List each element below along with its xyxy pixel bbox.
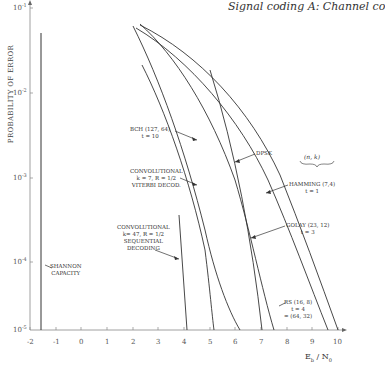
x-ticks — [30, 327, 338, 330]
x-tick-label: 5 — [208, 338, 212, 346]
x-tick-label: 10 — [333, 338, 342, 346]
annotation-conv-viterbi: CONVOLUTIONALk = 7, R = 1/2VITERBI DECOD… — [130, 168, 183, 189]
annotation-rs: RS (16, 8)t = 4= (64, 32) — [284, 299, 312, 320]
annotation-arrows — [45, 131, 288, 306]
series-conv-viterbi — [142, 65, 214, 330]
series-rs — [210, 70, 262, 330]
annotation-hamming: HAMMING (7,4)t = 1 — [289, 181, 335, 195]
x-axis-label: Eb / N0 — [305, 352, 332, 363]
x-tick-label: 9 — [310, 338, 314, 346]
x-tick-label: 3 — [156, 338, 160, 346]
x-tick-label: 7 — [259, 338, 263, 346]
x-tick-label: 1 — [105, 338, 109, 346]
y-tick-label: 10-4 — [13, 256, 27, 266]
x-tick-label: 2 — [131, 338, 135, 346]
y-tick-label: 10-5 — [13, 324, 27, 334]
y-ticks — [30, 8, 33, 262]
x-tick-label: 0 — [79, 338, 83, 346]
annotation-bch: BCH (127, 64)t = 10 — [130, 126, 170, 140]
nk-brace — [300, 161, 334, 167]
annotation-nk: (n, k) — [304, 153, 320, 160]
y-tick-label: 10-2 — [13, 87, 27, 97]
x-tick-label: 4 — [182, 338, 186, 346]
y-tick-label: 10-1 — [13, 2, 27, 12]
y-axis-arrow-icon — [28, 0, 32, 5]
x-tick-label: -2 — [27, 338, 34, 346]
x-tick-label: -1 — [53, 338, 60, 346]
annotation-shannon: SHANNONCAPACITY — [50, 263, 81, 277]
annotation-dpsk: DPSK — [256, 150, 272, 157]
x-tick-label: 6 — [233, 338, 237, 346]
series-conv-sequential — [179, 215, 187, 330]
annotation-conv-sequential: CONVOLUTIONALk= 47, R = 1/2SEQUENTIALDEC… — [117, 224, 170, 252]
x-axis-arrow-icon — [342, 328, 347, 332]
annotation-golay: GOLAY (23, 12)t = 3 — [286, 222, 329, 236]
y-tick-label: 10-3 — [13, 172, 27, 182]
x-tick-label: 8 — [285, 338, 289, 346]
